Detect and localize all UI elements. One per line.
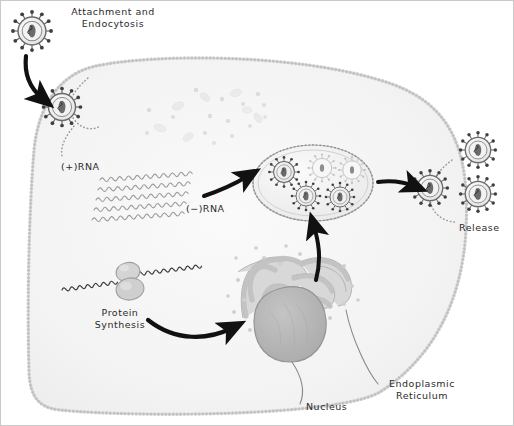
nucleus [254, 287, 326, 362]
label-minus-rna: (−)RNA [186, 203, 225, 215]
label-endoplasmic-reticulum: Endoplasmic Reticulum [382, 378, 462, 402]
assembly-vesicle [253, 145, 373, 221]
diagram-canvas: Attachment and Endocytosis (+)RNA (−)RNA… [0, 0, 514, 426]
label-nucleus: Nucleus [306, 401, 347, 413]
label-protein-synthesis: Protein Synthesis [80, 307, 160, 331]
label-attachment-endocytosis: Attachment and Endocytosis [57, 6, 169, 30]
label-plus-rna: (+)RNA [61, 161, 100, 173]
diagram-svg [0, 0, 514, 426]
label-release: Release [459, 222, 500, 234]
